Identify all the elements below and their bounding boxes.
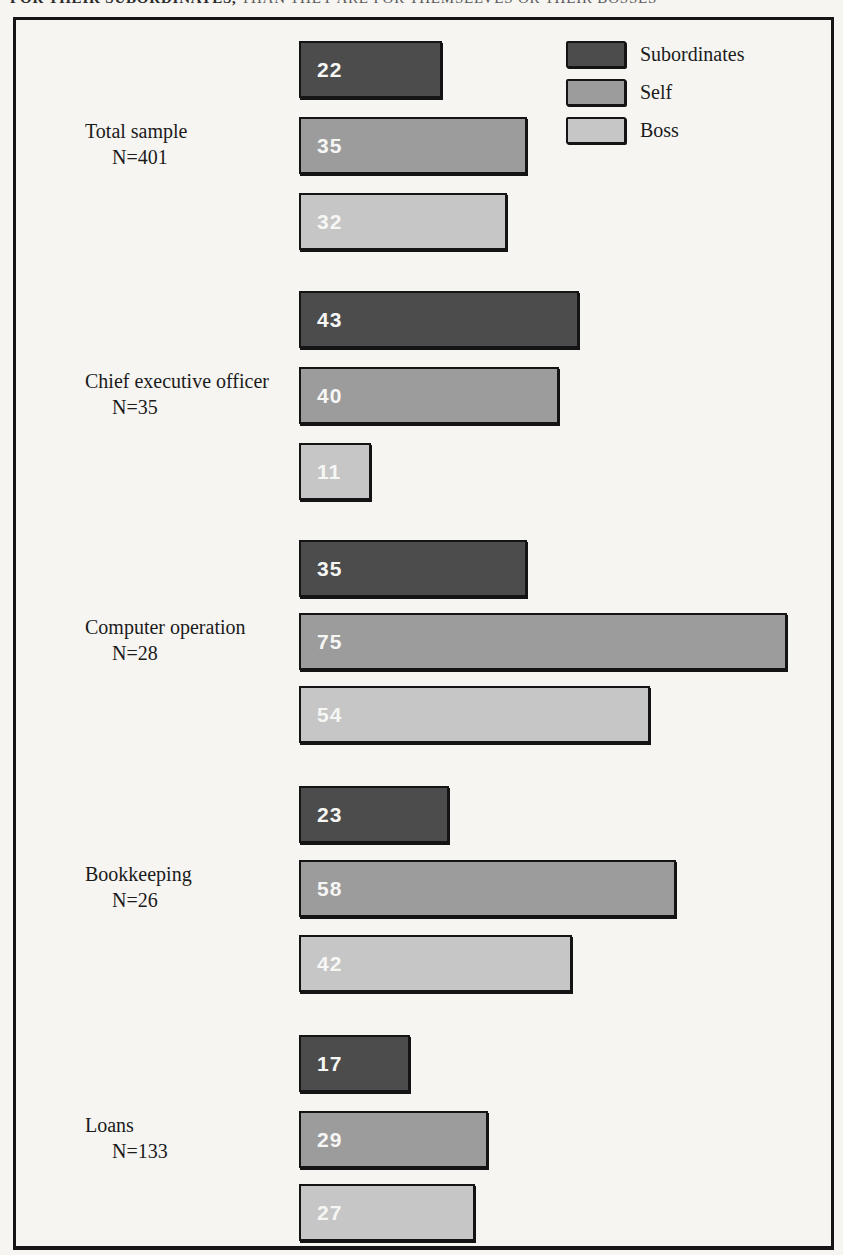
legend-label-subordinates: Subordinates <box>640 41 744 68</box>
group-n-label: N=133 <box>112 1138 168 1164</box>
bar-boss: 27 <box>299 1184 475 1241</box>
group-label: Total sample <box>85 118 187 144</box>
group-n-label: N=28 <box>112 640 158 666</box>
bar-boss: 11 <box>299 443 371 500</box>
bar-self: 75 <box>299 613 787 670</box>
bar-subordinates: 35 <box>299 540 527 597</box>
bar-self: 35 <box>299 117 527 174</box>
bar-value-label: 40 <box>317 383 342 407</box>
legend-swatch-self <box>566 79 626 106</box>
bar-value-label: 58 <box>317 876 342 900</box>
bar-value-label: 22 <box>317 57 342 81</box>
group-n-label: N=401 <box>112 144 168 170</box>
legend-label-boss: Boss <box>640 117 679 144</box>
group-label: Chief executive officer <box>85 368 269 394</box>
bar-self: 58 <box>299 860 676 917</box>
legend-swatch-boss <box>566 117 626 144</box>
bar-value-label: 17 <box>317 1051 342 1075</box>
bar-self: 40 <box>299 367 559 424</box>
bar-value-label: 32 <box>317 209 342 233</box>
group-label: Bookkeeping <box>85 861 192 887</box>
bar-value-label: 29 <box>317 1127 342 1151</box>
group-label: Loans <box>85 1112 134 1138</box>
bar-boss: 42 <box>299 935 572 992</box>
bar-value-label: 42 <box>317 951 342 975</box>
legend-swatch-subordinates <box>566 41 626 68</box>
bar-value-label: 11 <box>317 459 341 483</box>
chart-frame: SubordinatesSelfBoss Total sampleN=40122… <box>13 17 834 1250</box>
bar-value-label: 35 <box>317 556 342 580</box>
bar-value-label: 43 <box>317 307 342 331</box>
group-n-label: N=26 <box>112 887 158 913</box>
bar-subordinates: 22 <box>299 41 442 98</box>
bar-subordinates: 23 <box>299 786 449 843</box>
bar-value-label: 75 <box>317 629 342 653</box>
bar-value-label: 54 <box>317 702 342 726</box>
cropped-top-text-part2: THAN THEY ARE FOR THEMSELVES OR THEIR BO… <box>237 0 658 6</box>
bar-value-label: 35 <box>317 133 342 157</box>
legend-label-self: Self <box>640 79 672 106</box>
bar-value-label: 27 <box>317 1200 342 1224</box>
bar-boss: 54 <box>299 686 650 743</box>
scanned-figure-page: { "figure": { "cropped_top_text_part1": … <box>0 0 843 1255</box>
bar-value-label: 23 <box>317 802 342 826</box>
bar-boss: 32 <box>299 193 507 250</box>
cropped-top-text-part1: FOR THEIR SUBORDINATES, <box>10 0 237 6</box>
bar-self: 29 <box>299 1111 488 1168</box>
group-label: Computer operation <box>85 614 246 640</box>
bar-subordinates: 17 <box>299 1035 410 1092</box>
group-n-label: N=35 <box>112 394 158 420</box>
cropped-top-text: FOR THEIR SUBORDINATES, THAN THEY ARE FO… <box>10 0 690 8</box>
bar-subordinates: 43 <box>299 291 579 348</box>
cropped-top-text-line: FOR THEIR SUBORDINATES, THAN THEY ARE FO… <box>10 0 690 7</box>
